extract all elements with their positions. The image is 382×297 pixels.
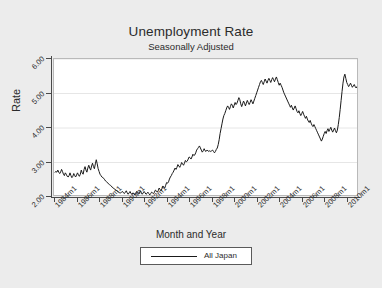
x-tick-label: 2010m1 xyxy=(346,203,348,213)
series-canvas xyxy=(54,59,358,196)
x-tick-label: 1996m1 xyxy=(188,203,190,213)
y-tick xyxy=(46,127,51,128)
x-tick-label: 2000m1 xyxy=(233,203,235,213)
plot-wrapper xyxy=(53,58,358,196)
x-tick-label: 1990m1 xyxy=(121,203,123,213)
y-axis-title: Rate xyxy=(10,89,22,112)
y-tick-label-text: 4.00 xyxy=(30,123,47,140)
x-tick-label: 1988m1 xyxy=(98,203,100,213)
x-tick-label: 2006m1 xyxy=(301,203,303,213)
plot-area xyxy=(53,58,358,196)
legend-label-all-japan: All Japan xyxy=(204,251,237,260)
x-tick-label: 2004m1 xyxy=(278,203,280,213)
x-axis-title: Month and Year xyxy=(0,229,382,240)
y-tick-label: 4.00 xyxy=(0,122,44,132)
x-tick-label: 2008m1 xyxy=(323,203,325,213)
y-tick xyxy=(46,196,51,197)
chart-subtitle: Seasonally Adjusted xyxy=(0,41,382,52)
bottom-strip xyxy=(0,288,382,297)
chart-legend: All Japan xyxy=(140,247,252,265)
legend-line-swatch xyxy=(151,256,197,257)
y-tick-label: 3.00 xyxy=(0,157,44,167)
x-tick-label: 1994m1 xyxy=(166,203,168,213)
y-tick-label: 6.00 xyxy=(0,53,44,63)
series-line-all-japan xyxy=(55,74,358,195)
y-tick xyxy=(46,58,51,59)
y-tick-label-text: 2.00 xyxy=(30,192,47,209)
x-tick-label: 1984m1 xyxy=(53,203,55,213)
y-tick-label-text: 5.00 xyxy=(30,89,47,106)
chart-figure: Unemployment Rate Seasonally Adjusted 2.… xyxy=(0,0,382,288)
y-tick-label-text: 6.00 xyxy=(30,54,47,71)
y-tick xyxy=(46,162,51,163)
y-tick-label-text: 3.00 xyxy=(30,158,47,175)
gridlines xyxy=(54,59,358,196)
x-tick-label: 1992m1 xyxy=(143,203,145,213)
y-tick-label: 2.00 xyxy=(0,191,44,201)
y-axis-line xyxy=(51,56,52,198)
x-tick-label: 2002m1 xyxy=(256,203,258,213)
x-tick-label: 1986m1 xyxy=(76,203,78,213)
chart-title: Unemployment Rate xyxy=(0,24,382,39)
y-tick xyxy=(46,93,51,94)
x-tick-label: 1998m1 xyxy=(211,203,213,213)
y-tick-label: 5.00 xyxy=(0,88,44,98)
